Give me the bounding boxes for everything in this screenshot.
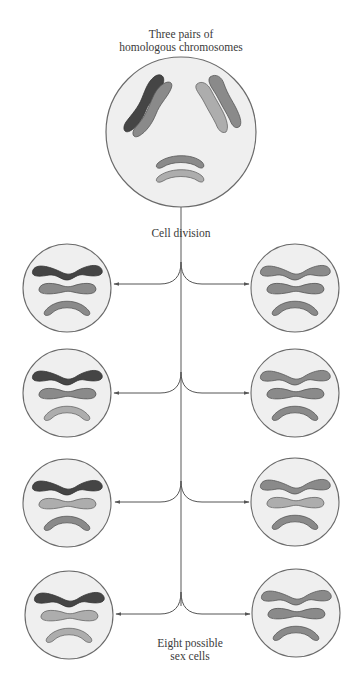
parent-cell (106, 57, 256, 207)
daughter-cell-right-4 (252, 569, 340, 657)
result-line-2: sex cells (140, 650, 240, 663)
sex-cells-label: Eight possible sex cells (140, 637, 240, 663)
meiosis-diagram (0, 0, 360, 696)
title-line-2: homologous chromosomes (100, 41, 262, 54)
branch-row-3 (115, 481, 249, 502)
branch-row-4 (116, 592, 250, 614)
parent-cell-label: Three pairs of homologous chromosomes (100, 28, 262, 54)
daughter-cell-right-3 (251, 458, 339, 546)
daughter-cell-left-2 (23, 349, 111, 437)
daughter-cell-right-1 (251, 244, 339, 332)
daughter-cell-left-3 (23, 459, 111, 547)
daughter-cell-left-4 (25, 571, 113, 659)
daughter-cell-right-2 (251, 349, 339, 437)
cell-division-label: Cell division (131, 227, 231, 240)
result-line-1: Eight possible (140, 637, 240, 650)
title-line-1: Three pairs of (100, 28, 262, 41)
daughter-cell-left-1 (23, 244, 111, 332)
